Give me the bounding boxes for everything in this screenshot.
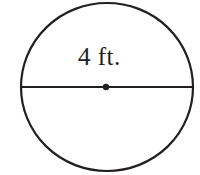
circle-diagram-figure: 4 ft.	[0, 0, 200, 175]
circle-diagram-svg	[0, 0, 200, 175]
center-point-dot	[103, 84, 109, 90]
diameter-measurement-label: 4 ft.	[78, 44, 121, 69]
